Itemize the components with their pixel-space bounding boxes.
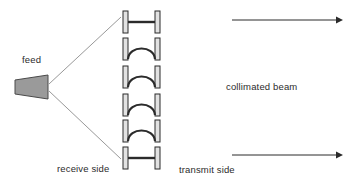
element-1-flat xyxy=(123,11,160,33)
diagram-graphics xyxy=(0,0,349,186)
label-receive-side: receive side xyxy=(57,163,110,174)
ray-upper-line xyxy=(49,17,121,84)
label-transmit-side: transmit side xyxy=(179,164,235,175)
label-feed: feed xyxy=(22,54,41,65)
arrow-bottom xyxy=(232,152,343,159)
element-6-flat xyxy=(123,147,160,169)
element-3-curved xyxy=(123,66,160,88)
ray-lower-line xyxy=(49,91,121,159)
arrow-top xyxy=(232,17,343,24)
element-5-curved xyxy=(123,120,160,142)
feed-horn-shape xyxy=(15,75,48,99)
element-2-curved xyxy=(123,38,160,60)
element-4-curved xyxy=(123,94,160,116)
label-collimated-beam: collimated beam xyxy=(226,81,297,92)
diagram-canvas: feed receive side transmit side collimat… xyxy=(0,0,349,186)
